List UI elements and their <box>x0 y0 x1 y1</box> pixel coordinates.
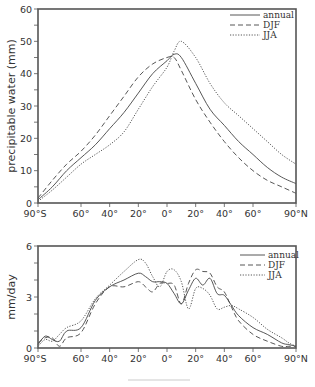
precipitable-water-chart: 0102030405060 90°S60°40°20°0°20°40°60°90… <box>5 4 308 220</box>
x-tick-label: 40° <box>216 353 233 364</box>
bottom-y-axis: 036 <box>26 241 38 354</box>
legend-label-djf: DJF <box>268 260 285 270</box>
bottom-y-axis-title: mm/day <box>5 274 18 320</box>
y-tick-label: 40 <box>20 68 32 79</box>
y-tick-label: 60 <box>20 4 32 15</box>
bottom-legend: annual DJF JJA <box>240 250 299 280</box>
bottom-series-jja <box>38 259 296 346</box>
x-tick-label: 40° <box>101 208 118 219</box>
y-tick-label: 10 <box>20 165 32 176</box>
y-tick-label: 0 <box>26 343 32 354</box>
top-series-jja <box>38 41 296 201</box>
top-series-lines <box>38 41 296 201</box>
bottom-x-axis: 90°S60°40°20°0°20°40°60°90°N <box>24 348 308 364</box>
x-tick-label: 40° <box>216 208 233 219</box>
x-tick-label: 20° <box>187 208 204 219</box>
legend-label-djf: DJF <box>263 20 280 30</box>
y-tick-label: 30 <box>20 101 32 112</box>
legend-label-annual: annual <box>263 10 294 20</box>
x-tick-label: 20° <box>130 353 147 364</box>
bottom-series-lines <box>38 259 296 347</box>
top-series-annual <box>38 54 296 200</box>
x-tick-label: 60° <box>245 353 262 364</box>
y-tick-label: 50 <box>20 36 32 47</box>
x-tick-label: 0° <box>162 208 173 219</box>
x-tick-label: 90°S <box>24 353 47 364</box>
legend-label-annual: annual <box>268 250 299 260</box>
y-tick-label: 0 <box>26 198 32 209</box>
bottom-series-djf <box>38 269 296 347</box>
top-y-axis: 0102030405060 <box>20 4 38 209</box>
y-tick-label: 20 <box>20 133 32 144</box>
x-tick-label: 90°S <box>24 208 47 219</box>
x-tick-label: 60° <box>73 353 90 364</box>
y-tick-label: 6 <box>26 241 32 252</box>
legend-label-jja: JJA <box>267 270 282 280</box>
x-tick-label: 20° <box>187 353 204 364</box>
y-tick-label: 3 <box>26 292 32 303</box>
x-tick-label: 0° <box>162 353 173 364</box>
x-tick-label: 60° <box>73 208 90 219</box>
top-x-axis: 90°S60°40°20°0°20°40°60°90°N <box>24 203 308 219</box>
top-legend: annual DJF JJA <box>230 10 294 40</box>
bottom-plot-frame <box>38 246 296 348</box>
x-tick-label: 90°N <box>284 353 308 364</box>
x-tick-label: 40° <box>101 353 118 364</box>
chart-canvas: 0102030405060 90°S60°40°20°0°20°40°60°90… <box>0 0 315 387</box>
x-tick-label: 90°N <box>284 208 308 219</box>
top-series-djf <box>38 56 296 198</box>
x-tick-label: 60° <box>245 208 262 219</box>
x-tick-label: 20° <box>130 208 147 219</box>
top-y-axis-title: precipitable water (mm) <box>5 39 18 172</box>
legend-label-jja: JJA <box>262 30 277 40</box>
precipitation-rate-chart: 036 90°S60°40°20°0°20°40°60°90°N mm/day … <box>5 241 308 365</box>
